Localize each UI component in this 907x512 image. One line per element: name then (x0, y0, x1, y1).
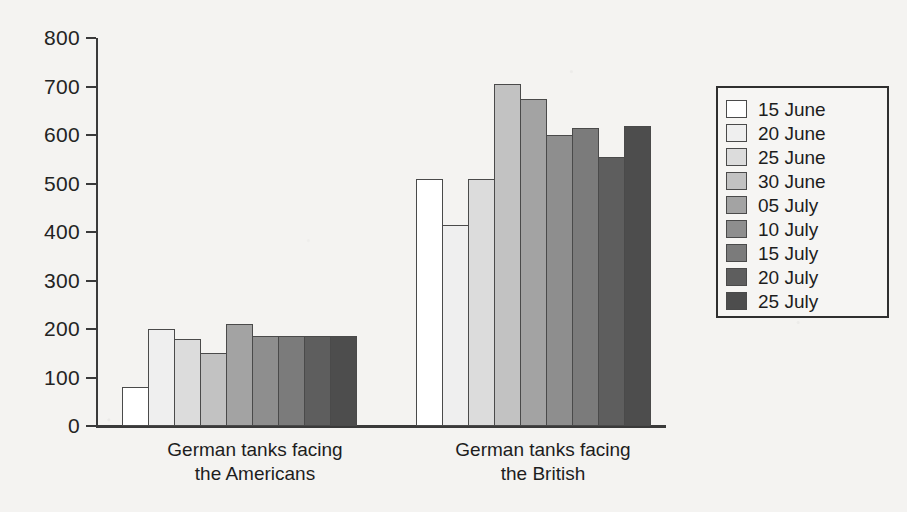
bar-british-30-june (494, 84, 521, 426)
bar-british-20-july (598, 157, 625, 426)
legend-item-25-june[interactable]: 25 June (726, 145, 887, 169)
bar-british-25-july (624, 126, 651, 426)
bar-british-20-june (442, 225, 469, 426)
legend-swatch-icon (726, 244, 747, 262)
category-label-british: German tanks facing the British (398, 438, 688, 486)
bar-americans-25-june (174, 339, 201, 426)
bar-americans-20-july (304, 336, 331, 426)
y-tick-label-500: 500 (20, 173, 80, 194)
legend-label: 10 July (758, 220, 818, 239)
y-tick-400 (86, 231, 96, 233)
bar-british-15-june (416, 179, 443, 426)
legend-label: 25 June (758, 148, 826, 167)
legend-label: 15 June (758, 100, 826, 119)
bar-chart: 8007006005004003002001000 German tanks f… (0, 0, 907, 512)
y-tick-700 (86, 86, 96, 88)
legend-item-10-july[interactable]: 10 July (726, 217, 887, 241)
bar-british-05-july (520, 99, 547, 426)
y-tick-label-200: 200 (20, 318, 80, 339)
y-tick-label-800: 800 (20, 27, 80, 48)
legend-label: 05 July (758, 196, 818, 215)
bar-group-british (416, 38, 651, 426)
legend-label: 15 July (758, 244, 818, 263)
y-tick-label-600: 600 (20, 124, 80, 145)
bar-british-15-july (572, 128, 599, 426)
legend-label: 20 July (758, 268, 818, 287)
y-tick-300 (86, 280, 96, 282)
bar-british-10-july (546, 135, 573, 426)
legend-item-15-june[interactable]: 15 June (726, 97, 887, 121)
y-tick-600 (86, 134, 96, 136)
legend-item-20-june[interactable]: 20 June (726, 121, 887, 145)
y-tick-200 (86, 328, 96, 330)
legend-item-05-july[interactable]: 05 July (726, 193, 887, 217)
legend-swatch-icon (726, 100, 747, 118)
legend-swatch-icon (726, 268, 747, 286)
legend-swatch-icon (726, 196, 747, 214)
bar-americans-15-july (278, 336, 305, 426)
legend-item-15-july[interactable]: 15 July (726, 241, 887, 265)
legend-swatch-icon (726, 220, 747, 238)
y-tick-label-100: 100 (20, 367, 80, 388)
y-tick-label-300: 300 (20, 270, 80, 291)
bar-americans-25-july (330, 336, 357, 426)
legend-swatch-icon (726, 292, 747, 310)
plot-area (96, 38, 671, 426)
category-label-americans: German tanks facing the Americans (110, 438, 400, 486)
legend-item-20-july[interactable]: 20 July (726, 265, 887, 289)
legend-label: 20 June (758, 124, 826, 143)
legend-label: 25 July (758, 292, 818, 311)
y-tick-500 (86, 183, 96, 185)
legend-swatch-icon (726, 148, 747, 166)
y-tick-label-0: 0 (20, 415, 80, 436)
legend-swatch-icon (726, 172, 747, 190)
legend-item-30-june[interactable]: 30 June (726, 169, 887, 193)
y-tick-100 (86, 377, 96, 379)
bar-americans-20-june (148, 329, 175, 426)
legend-item-25-july[interactable]: 25 July (726, 289, 887, 313)
bar-americans-10-july (252, 336, 279, 426)
bar-british-25-june (468, 179, 495, 426)
legend: 15 June20 June25 June30 June05 July10 Ju… (716, 86, 889, 318)
y-tick-label-700: 700 (20, 76, 80, 97)
bar-americans-30-june (200, 353, 227, 426)
bar-group-americans (122, 38, 357, 426)
legend-label: 30 June (758, 172, 826, 191)
y-tick-label-400: 400 (20, 221, 80, 242)
y-tick-0 (86, 425, 96, 427)
y-tick-800 (86, 37, 96, 39)
legend-swatch-icon (726, 124, 747, 142)
bar-americans-15-june (122, 387, 149, 426)
bar-americans-05-july (226, 324, 253, 426)
